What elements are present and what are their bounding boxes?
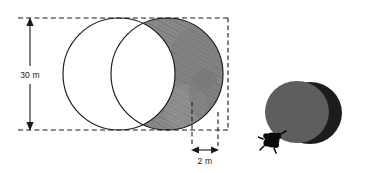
arrowhead-right (211, 147, 219, 154)
width-dimension: 2 m (191, 147, 219, 166)
shaded-crescent (60, 10, 235, 140)
shaded-discs-illustration (258, 81, 342, 153)
figure-root: Crescent-shaped region formed by two ove… (0, 0, 371, 173)
height-dimension-label: 30 m (20, 70, 40, 80)
diagram-canvas: Crescent-shaped region formed by two ove… (0, 0, 371, 173)
height-dimension: 30 m (20, 17, 40, 131)
overlapping-circles-diagram: 30 m 2 m (18, 10, 235, 166)
arrowhead-left (191, 147, 199, 154)
width-dimension-label: 2 m (198, 156, 213, 166)
black-blob-marker (258, 131, 286, 153)
